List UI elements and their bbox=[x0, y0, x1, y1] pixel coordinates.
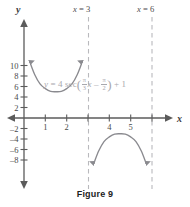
x-tick-label-1: 1 bbox=[43, 122, 47, 132]
y-axis bbox=[20, 19, 28, 189]
figure-container: 1 2 4 5 10 8 6 4 2 –2 –4 –6 –8 y x x = 3… bbox=[0, 0, 190, 207]
asymptote-label-right: x = 6 bbox=[137, 4, 154, 14]
x-tick-label-2: 2 bbox=[65, 122, 69, 132]
y-tick-label-neg4: –4 bbox=[9, 134, 19, 144]
equation-shift-denominator: 2 bbox=[101, 85, 106, 92]
asymptote-label-left-eq: = 3 bbox=[77, 4, 90, 14]
asymptote-label-left: x = 3 bbox=[73, 4, 90, 14]
y-tick-label-neg8: –8 bbox=[9, 155, 19, 165]
equation-annotation: y = 4 sec(π3x – π2) + 1 bbox=[44, 77, 126, 93]
equation-open-paren: ( bbox=[77, 77, 81, 93]
equation-coefficient-fraction: π3 bbox=[82, 77, 87, 91]
y-axis-label: y bbox=[15, 4, 21, 15]
asymptote-label-right-eq: = 6 bbox=[141, 4, 154, 14]
figure-caption: Figure 9 bbox=[0, 189, 190, 199]
curve-lower-branch bbox=[94, 134, 146, 163]
equation-operator: = 4 sec bbox=[48, 79, 77, 89]
x-tick-label-5: 5 bbox=[129, 122, 133, 132]
x-axis bbox=[7, 114, 173, 122]
y-tick-label-4: 4 bbox=[14, 92, 19, 102]
equation-shift-fraction: π2 bbox=[101, 77, 106, 91]
x-axis-label: x bbox=[176, 113, 182, 124]
equation-tail: + 1 bbox=[112, 79, 126, 89]
equation-minus: – bbox=[92, 79, 101, 89]
y-tick-label-neg2: –2 bbox=[9, 124, 19, 134]
y-tick-label-6: 6 bbox=[14, 82, 18, 92]
y-tick-label-8: 8 bbox=[14, 71, 18, 81]
coordinate-plot: 1 2 4 5 10 8 6 4 2 –2 –4 –6 –8 y x bbox=[0, 0, 190, 207]
x-tick-label-4: 4 bbox=[107, 122, 112, 132]
y-tick-label-neg6: –6 bbox=[9, 145, 19, 155]
equation-coefficient-denominator: 3 bbox=[82, 85, 87, 92]
y-tick-label-10: 10 bbox=[10, 61, 19, 71]
y-tick-label-2: 2 bbox=[14, 103, 18, 113]
